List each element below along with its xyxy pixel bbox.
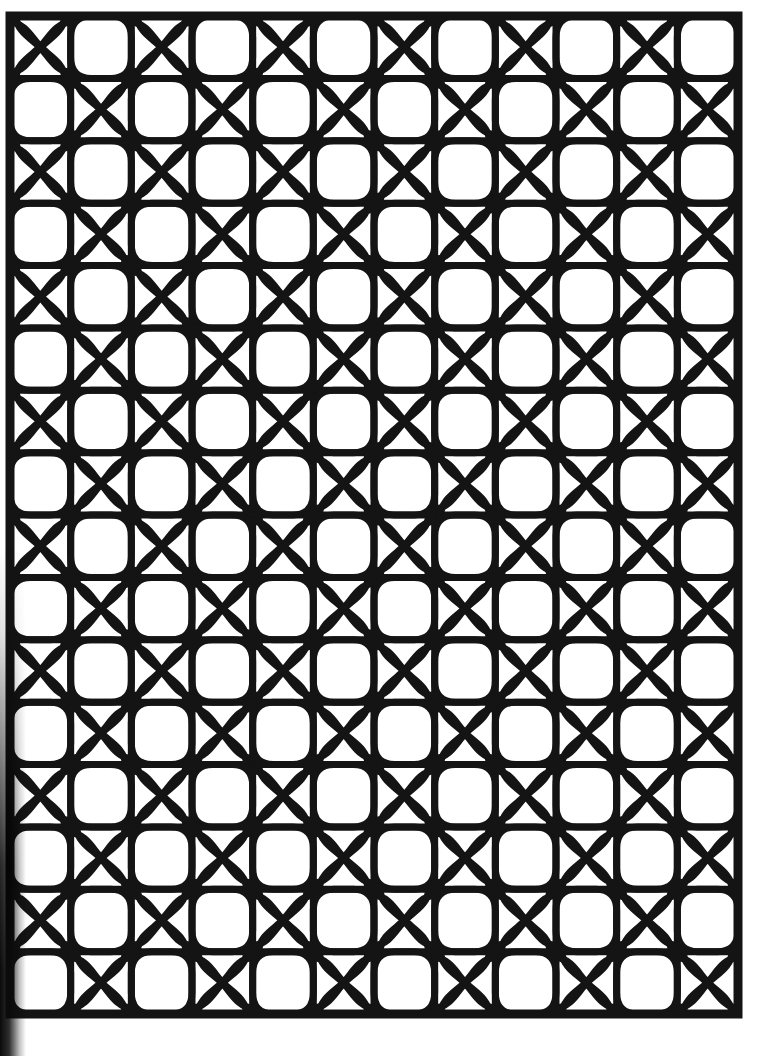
lattice-artwork (0, 0, 768, 1056)
scanned-page: Geometric Lattice Coloring Page Symmetri… (0, 0, 768, 1056)
